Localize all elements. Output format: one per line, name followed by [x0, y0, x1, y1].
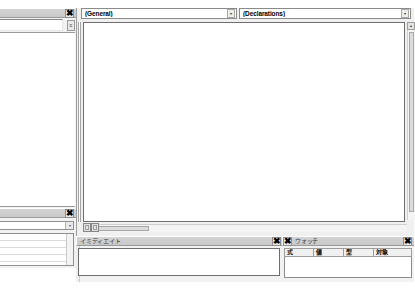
- properties-window[interactable]: ✖ ▾: [0, 208, 76, 268]
- chevron-down-icon[interactable]: ▾: [227, 9, 235, 18]
- code-margin-indicator-bar[interactable]: [78, 22, 81, 222]
- project-explorer-scroll-icon[interactable]: ≡: [67, 20, 75, 31]
- properties-object-select[interactable]: ▾: [0, 221, 74, 230]
- watch-window-titlebar[interactable]: ウォッチ: [282, 236, 414, 246]
- chevron-down-icon[interactable]: ▾: [65, 222, 73, 229]
- watch-column-context[interactable]: 対象: [374, 248, 412, 257]
- watch-window-title: ウォッチ: [295, 238, 413, 244]
- procedure-dropdown[interactable]: (Declarations) ▾: [239, 8, 411, 19]
- project-explorer-close-icon[interactable]: ✖: [65, 9, 74, 18]
- project-explorer-window[interactable]: ✖ ≡ 1.xlsm) XLSB) m): [0, 8, 76, 208]
- code-vertical-scrollbar[interactable]: [407, 30, 415, 220]
- object-dropdown[interactable]: (General) ▾: [81, 8, 237, 19]
- watch-window[interactable]: ウォッチ ✖ ✖ 式 値 型 対象: [282, 236, 414, 282]
- immediate-window[interactable]: イミディエイト ✖: [76, 236, 282, 282]
- tree-item[interactable]: XLSB): [0, 47, 75, 55]
- object-dropdown-value: (General): [82, 10, 227, 17]
- properties-vertical-scrollbar[interactable]: [66, 234, 73, 265]
- watch-column-type[interactable]: 型: [344, 248, 374, 257]
- code-window[interactable]: (General) ▾ (Declarations) ▾ ▴: [76, 8, 414, 236]
- procedure-dropdown-value: (Declarations): [240, 10, 401, 17]
- full-module-view-button[interactable]: [91, 223, 99, 232]
- watch-column-value[interactable]: 値: [314, 248, 344, 257]
- watch-window-close-icon[interactable]: ✖: [403, 237, 412, 246]
- properties-row[interactable]: [0, 255, 73, 262]
- immediate-window-input[interactable]: [78, 248, 280, 276]
- code-hscroll-thumb[interactable]: [97, 226, 149, 231]
- properties-row[interactable]: [0, 248, 73, 255]
- watch-column-expression[interactable]: 式: [284, 248, 314, 257]
- properties-row[interactable]: [0, 241, 73, 248]
- tree-item[interactable]: m): [0, 55, 75, 63]
- chevron-down-icon[interactable]: ▾: [401, 9, 409, 18]
- properties-row[interactable]: [0, 234, 73, 241]
- immediate-window-title: イミディエイト: [80, 238, 281, 244]
- procedure-view-button[interactable]: [83, 223, 91, 232]
- properties-close-icon[interactable]: ✖: [65, 209, 74, 218]
- immediate-window-close-icon[interactable]: ✖: [272, 237, 281, 246]
- code-vscroll-thumb[interactable]: [409, 32, 414, 212]
- window-bottom-divider: [0, 282, 414, 283]
- code-view-toggle-group[interactable]: [83, 223, 100, 232]
- watch-list[interactable]: [284, 257, 412, 278]
- scroll-up-icon[interactable]: ▴: [407, 22, 415, 30]
- properties-grid[interactable]: [0, 233, 74, 266]
- watch-window-dock-close-icon[interactable]: ✖: [283, 237, 292, 246]
- watch-column-header-row: 式 値 型 対象: [284, 248, 412, 257]
- code-dropdown-bar: (General) ▾ (Declarations) ▾: [77, 8, 415, 20]
- code-editor-area[interactable]: [83, 22, 405, 222]
- code-horizontal-scrollbar[interactable]: [83, 224, 407, 232]
- project-explorer-tree[interactable]: 1.xlsm) XLSB) m): [0, 32, 75, 207]
- immediate-window-titlebar[interactable]: イミディエイト: [76, 236, 282, 246]
- project-explorer-toolbar[interactable]: [0, 19, 63, 31]
- tree-item[interactable]: 1.xlsm): [0, 39, 75, 47]
